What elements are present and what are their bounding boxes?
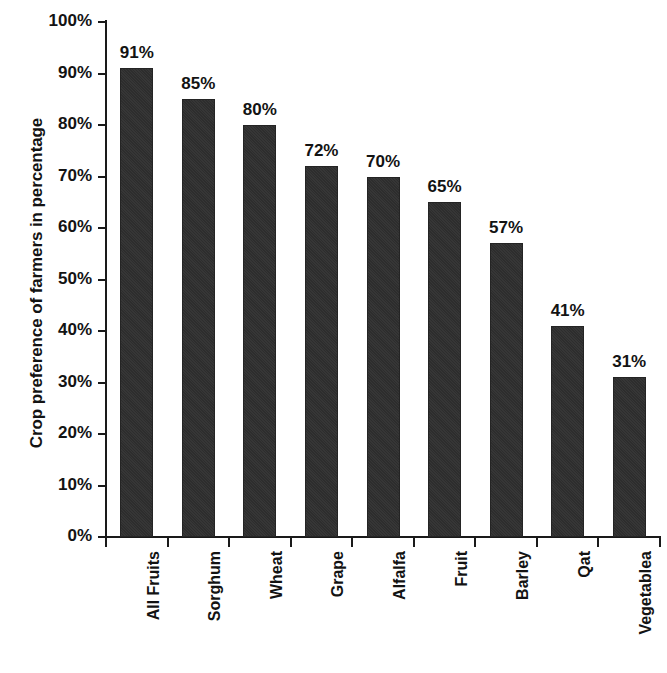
bar-value-label: 70%: [348, 152, 418, 172]
x-axis-tick: [474, 537, 476, 547]
bar: [182, 99, 215, 537]
x-axis-category-label: Grape: [329, 551, 347, 597]
y-axis-tick-label: 80%: [0, 114, 92, 134]
bar-value-label: 72%: [286, 141, 356, 161]
bar: [551, 326, 584, 537]
bar-value-label: 80%: [225, 100, 295, 120]
y-axis-tick-label: 20%: [0, 423, 92, 443]
y-axis-tick-label: 30%: [0, 372, 92, 392]
y-axis-tick-label: 40%: [0, 320, 92, 340]
bar-value-label: 57%: [471, 218, 541, 238]
bar-value-label: 91%: [102, 43, 172, 63]
bar: [490, 243, 523, 537]
bar-value-label: 85%: [163, 74, 233, 94]
y-axis-tick-label: 70%: [0, 166, 92, 186]
bar: [305, 166, 338, 537]
y-axis-tick-label: 0%: [0, 526, 92, 546]
bar: [428, 202, 461, 537]
bar-chart: Crop preference of farmers in percentage…: [0, 0, 667, 673]
bar: [120, 68, 153, 537]
x-axis-category-label: Alfalfa: [391, 551, 409, 600]
x-axis-tick: [536, 537, 538, 547]
bar-value-label: 31%: [594, 352, 664, 372]
x-axis-category-label: Vegetablea: [637, 551, 655, 635]
bar: [367, 177, 400, 538]
bar: [243, 125, 276, 537]
y-axis-tick-label: 90%: [0, 63, 92, 83]
x-axis-tick: [167, 537, 169, 547]
x-axis-category-label: Wheat: [268, 551, 286, 599]
x-axis-tick: [597, 537, 599, 547]
x-axis-category-label: Sorghum: [206, 551, 224, 621]
y-axis-tick-label: 60%: [0, 217, 92, 237]
bar: [613, 377, 646, 537]
y-axis-tick-label: 50%: [0, 269, 92, 289]
y-axis-tick-label: 10%: [0, 475, 92, 495]
x-axis-tick: [290, 537, 292, 547]
plot-area: [106, 22, 660, 537]
x-axis-category-label: All Fruits: [145, 551, 163, 620]
y-axis-tick-label: 100%: [0, 11, 92, 31]
x-axis-tick: [413, 537, 415, 547]
x-axis-category-label: Fruit: [453, 551, 471, 587]
x-axis-tick: [228, 537, 230, 547]
x-axis-tick: [659, 537, 661, 547]
bar-value-label: 65%: [410, 177, 480, 197]
x-axis-category-label: Qat: [576, 551, 594, 578]
x-axis-tick: [351, 537, 353, 547]
x-axis-category-label: Barley: [514, 551, 532, 600]
bar-value-label: 41%: [533, 301, 603, 321]
x-axis-tick: [105, 537, 107, 547]
